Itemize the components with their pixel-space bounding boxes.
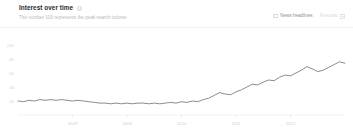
y-axis-ticks: 10080604020 xyxy=(7,43,15,104)
help-icon[interactable]: ? xyxy=(77,6,82,11)
header-divider xyxy=(0,27,353,28)
x-tick-label: 2012 xyxy=(286,121,296,126)
interest-over-time-panel: Interest over time ? The number 100 repr… xyxy=(0,0,353,137)
forecast-toggle[interactable]: Forecast xyxy=(320,13,345,19)
chart-area: 10080604020 20082009201020112012 xyxy=(0,30,353,137)
forecast-icon[interactable] xyxy=(340,14,345,19)
series-line-search-interest xyxy=(18,62,345,104)
forecast-label: Forecast xyxy=(320,13,338,19)
interest-line-chart: 10080604020 20082009201020112012 xyxy=(0,30,353,137)
y-tick-label: 60 xyxy=(9,71,14,76)
news-headlines-label: News headlines xyxy=(280,13,312,19)
news-headlines-checkbox[interactable] xyxy=(273,14,278,19)
x-tick-label: 2010 xyxy=(177,121,187,126)
x-tick-label: 2008 xyxy=(68,121,78,126)
header-controls: News headlines Forecast xyxy=(273,13,345,19)
page-title: Interest over time xyxy=(19,4,73,12)
y-tick-label: 20 xyxy=(9,99,14,104)
news-headlines-toggle[interactable]: News headlines xyxy=(273,13,312,19)
x-tick-label: 2009 xyxy=(122,121,132,126)
x-tick-label: 2011 xyxy=(231,121,241,126)
y-tick-label: 80 xyxy=(9,57,14,62)
y-tick-label: 100 xyxy=(7,43,15,48)
x-axis-ticks: 20082009201020112012 xyxy=(68,115,296,126)
panel-header: Interest over time ? The number 100 repr… xyxy=(0,0,353,27)
y-tick-label: 40 xyxy=(9,85,14,90)
panel-subtitle: The number 100 represents the peak searc… xyxy=(19,15,127,21)
title-row: Interest over time ? xyxy=(19,4,82,12)
